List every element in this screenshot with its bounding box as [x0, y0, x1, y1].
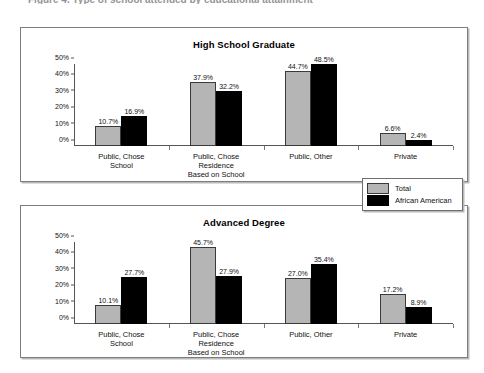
- bar-value-label: 8.9%: [411, 299, 427, 306]
- x-axis-category-label: Public, ChoseResidenceBased on School: [188, 152, 245, 179]
- x-axis-category-label: Public, ChoseSchool: [98, 152, 144, 170]
- bar-value-label: 48.5%: [314, 56, 334, 63]
- plot-area-high-school-graduate: 0%10%20%30%40%50% 10.7%16.9%Public, Chos…: [74, 64, 453, 146]
- bar-total: 27.0%: [285, 278, 311, 324]
- x-axis-category-label: Public, ChoseSchool: [98, 330, 144, 348]
- bar-value-label: 17.2%: [383, 286, 403, 293]
- x-axis-group-tick: [169, 324, 170, 328]
- x-axis-group-tick: [453, 324, 454, 328]
- plot-area-advanced-degree: 0%10%20%30%40%50% 10.1%27.7%Public, Chos…: [74, 242, 453, 324]
- x-axis-group-tick: [264, 324, 265, 328]
- x-axis-group-tick: [358, 324, 359, 328]
- bar-group: 37.9%32.2%Public, ChoseResidenceBased on…: [169, 64, 264, 146]
- cut-off-caption-fragment: Figure 4. Type of school attended by edu…: [28, 0, 458, 4]
- bar-value-label: 16.9%: [124, 108, 144, 115]
- x-axis-category-label: Private: [394, 152, 417, 161]
- bar-group: 44.7%48.5%Public, Other: [264, 64, 359, 146]
- bar-african-american: 27.9%: [216, 276, 242, 324]
- bar-african-american: 8.9%: [406, 307, 432, 324]
- bar-value-label: 27.9%: [219, 268, 239, 275]
- bar-total: 10.7%: [95, 126, 121, 146]
- y-axis-tick-label: 40%: [55, 248, 74, 255]
- y-axis-tick-label: 10%: [55, 119, 74, 126]
- legend-swatch-gray-icon: [367, 183, 389, 194]
- bar-value-label: 45.7%: [193, 239, 213, 246]
- bar-pair: 45.7%27.9%: [169, 242, 264, 324]
- bar-value-label: 10.1%: [98, 297, 118, 304]
- bar-group: 27.0%35.4%Public, Other: [264, 242, 359, 324]
- chart-panel-high-school-graduate: High School Graduate 0%10%20%30%40%50% 1…: [20, 27, 468, 182]
- bar-value-label: 2.4%: [411, 132, 427, 139]
- bar-total: 37.9%: [190, 82, 216, 146]
- x-axis-group-tick: [453, 146, 454, 150]
- x-axis-group-tick: [169, 146, 170, 150]
- x-axis-group-tick: [264, 146, 265, 150]
- legend-swatch-black-icon: [367, 195, 389, 206]
- legend-item-african-american: African American: [367, 194, 458, 206]
- x-axis-category-label: Private: [394, 330, 417, 339]
- bar-group: 10.7%16.9%Public, ChoseSchool: [74, 64, 169, 146]
- bar-pair: 17.2%8.9%: [358, 242, 453, 324]
- y-axis-tick-label: 20%: [55, 281, 74, 288]
- bar-group: 6.6%2.4%Private: [358, 64, 453, 146]
- bar-value-label: 27.0%: [288, 270, 308, 277]
- y-axis-tick-label: 50%: [55, 232, 74, 239]
- bar-total: 10.1%: [95, 305, 121, 324]
- y-axis-tick-label: 50%: [55, 54, 74, 61]
- bar-pair: 6.6%2.4%: [358, 64, 453, 146]
- bar-group: 10.1%27.7%Public, ChoseSchool: [74, 242, 169, 324]
- x-axis-group-tick: [358, 146, 359, 150]
- bar-pair: 10.1%27.7%: [74, 242, 169, 324]
- bar-pair: 37.9%32.2%: [169, 64, 264, 146]
- bar-group: 17.2%8.9%Private: [358, 242, 453, 324]
- bar-value-label: 27.7%: [124, 269, 144, 276]
- chart-title: High School Graduate: [21, 39, 467, 50]
- bar-pair: 44.7%48.5%: [264, 64, 359, 146]
- bar-value-label: 37.9%: [193, 74, 213, 81]
- y-axis-tick-label: 30%: [55, 86, 74, 93]
- bar-african-american: 32.2%: [216, 91, 242, 146]
- bar-african-american: 16.9%: [121, 116, 147, 146]
- bar-african-american: 48.5%: [311, 64, 337, 146]
- y-axis-tick-label: 30%: [55, 264, 74, 271]
- chart-legend: Total African American: [362, 178, 463, 211]
- bar-african-american: 35.4%: [311, 264, 337, 324]
- bar-african-american: 2.4%: [406, 140, 432, 146]
- x-axis-category-label: Public, ChoseResidenceBased on School: [188, 330, 245, 357]
- bar-total: 45.7%: [190, 247, 216, 324]
- y-axis-tick-label: 20%: [55, 103, 74, 110]
- bar-african-american: 27.7%: [121, 277, 147, 324]
- y-axis-tick-label: 0%: [59, 314, 74, 321]
- chart-panel-advanced-degree: Advanced Degree 0%10%20%30%40%50% 10.1%2…: [20, 205, 468, 358]
- bar-group: 45.7%27.9%Public, ChoseResidenceBased on…: [169, 242, 264, 324]
- bar-value-label: 32.2%: [219, 83, 239, 90]
- bar-value-label: 44.7%: [288, 63, 308, 70]
- bar-value-label: 6.6%: [385, 125, 401, 132]
- legend-item-total: Total: [367, 182, 458, 194]
- bar-pair: 10.7%16.9%: [74, 64, 169, 146]
- x-axis-category-label: Public, Other: [289, 330, 332, 339]
- bar-total: 6.6%: [380, 133, 406, 146]
- bar-total: 17.2%: [380, 294, 406, 324]
- chart-title: Advanced Degree: [21, 217, 467, 228]
- y-axis-tick-label: 10%: [55, 297, 74, 304]
- y-axis-tick-label: 0%: [59, 136, 74, 143]
- legend-label: Total: [395, 184, 411, 193]
- bar-pair: 27.0%35.4%: [264, 242, 359, 324]
- legend-label: African American: [395, 196, 452, 205]
- bar-value-label: 10.7%: [98, 118, 118, 125]
- bar-value-label: 35.4%: [314, 256, 334, 263]
- bar-total: 44.7%: [285, 71, 311, 146]
- x-axis-category-label: Public, Other: [289, 152, 332, 161]
- y-axis-tick-label: 40%: [55, 70, 74, 77]
